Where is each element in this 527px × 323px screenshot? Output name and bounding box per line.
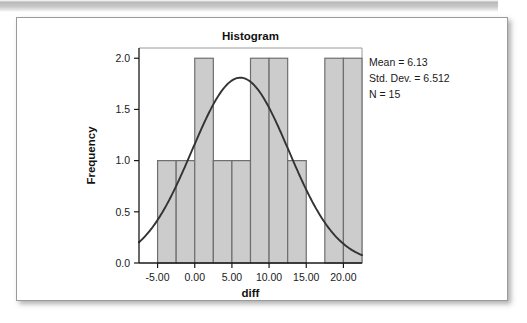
- x-axis-tick-label: 20.00: [330, 271, 356, 283]
- histogram-bar: [195, 58, 214, 263]
- histogram-figure-card: Histogram 0.00.51.01.52.0 -5.000.005.001…: [16, 17, 508, 301]
- x-axis-tick-label: -5.00: [146, 271, 170, 283]
- stats-n: N = 15: [369, 88, 400, 100]
- x-axis-title: diff: [242, 287, 260, 299]
- stats-mean: Mean = 6.13: [369, 56, 428, 68]
- y-axis-tick-label: 0.5: [115, 206, 130, 218]
- histogram-bar: [158, 161, 177, 263]
- x-axis-ticks: -5.000.005.0010.0015.0020.00: [146, 263, 357, 283]
- x-axis-tick-label: 0.00: [185, 271, 206, 283]
- histogram-bar: [213, 161, 232, 263]
- page-top-band-right-gap: [498, 0, 527, 12]
- histogram-bar: [288, 161, 307, 263]
- histogram-chart: Histogram 0.00.51.01.52.0 -5.000.005.001…: [17, 18, 507, 300]
- histogram-bar: [251, 58, 270, 263]
- chart-title: Histogram: [222, 30, 279, 42]
- stats-annotation-block: Mean = 6.13 Std. Dev. = 6.512 N = 15: [369, 56, 450, 100]
- histogram-bar: [325, 58, 344, 263]
- histogram-bar: [343, 58, 362, 263]
- y-axis-tick-label: 2.0: [115, 52, 130, 64]
- histogram-bar: [269, 58, 288, 263]
- plot-area-wrapper: Histogram 0.00.51.01.52.0 -5.000.005.001…: [17, 18, 507, 300]
- y-axis-tick-label: 0.0: [115, 257, 130, 269]
- x-axis-tick-label: 10.00: [256, 271, 282, 283]
- y-axis-tick-label: 1.0: [115, 154, 130, 166]
- histogram-bar: [176, 161, 195, 263]
- y-axis-ticks: 0.00.51.01.52.0: [115, 52, 139, 269]
- y-axis-title: Frequency: [85, 126, 97, 185]
- x-axis-tick-label: 5.00: [222, 271, 243, 283]
- y-axis-tick-label: 1.5: [115, 103, 130, 115]
- histogram-bar: [232, 161, 251, 263]
- stats-std-dev: Std. Dev. = 6.512: [369, 72, 450, 84]
- x-axis-tick-label: 15.00: [293, 271, 319, 283]
- page-top-band: [0, 0, 527, 12]
